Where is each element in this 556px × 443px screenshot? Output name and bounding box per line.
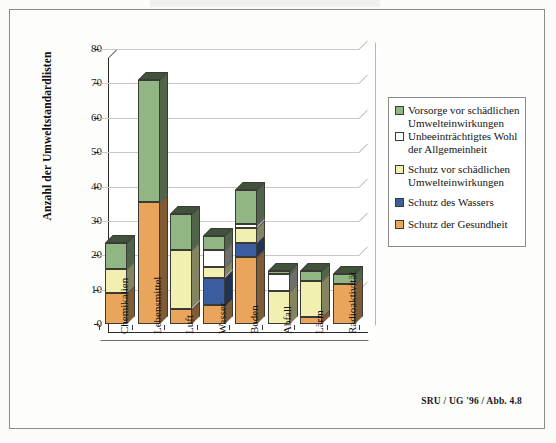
plot-right-wall	[368, 42, 376, 333]
plot-floor	[100, 333, 376, 341]
bar-segment[interactable]	[138, 80, 160, 202]
bar-group-boden[interactable]	[235, 10, 257, 326]
legend-swatch-icon	[395, 132, 404, 141]
legend-label: Schutz der Gesundheit	[408, 218, 508, 231]
x-tick-mark-end	[359, 325, 360, 330]
legend-swatch-icon	[395, 165, 404, 174]
y-axis-labels: 01020304050607080	[68, 10, 102, 443]
legend-swatch-icon	[395, 106, 404, 115]
legend-item-wohl-allgemeinheit[interactable]: Unbeeinträchtigtes Wohl der Allgemeinhei…	[395, 130, 520, 155]
bar-group-wasser[interactable]	[203, 10, 225, 326]
y-axis-title: Anzahl der Umweltstandardlisten	[41, 36, 53, 236]
legend-item-schutz-gesundheit[interactable]: Schutz der Gesundheit	[395, 218, 520, 231]
bar-segment[interactable]	[203, 250, 225, 267]
x-tick-mark-6	[294, 325, 295, 330]
bar-segment[interactable]	[203, 278, 225, 306]
x-tick-mark-3	[197, 325, 198, 330]
x-tick-mark-4	[229, 325, 230, 330]
bar-segment[interactable]	[268, 274, 290, 291]
bar-group-abfall[interactable]	[268, 10, 290, 326]
legend: Vorsorge vor schädlichen Umwelteinwirkun…	[388, 97, 526, 247]
category-label-abfall: Abfall	[282, 306, 293, 334]
category-label-lrm: Lärm	[314, 310, 325, 334]
source-note: SRU / UG '96 / Abb. 4.8	[421, 396, 522, 406]
scan-artifact	[150, 0, 380, 7]
figure-root: 01020304050607080 Anzahl der Umweltstand…	[0, 0, 556, 443]
bar-segment[interactable]	[203, 267, 225, 277]
bar-group-lrm[interactable]	[300, 10, 322, 326]
bar-segment-side	[160, 72, 168, 202]
x-tick-mark-7	[327, 325, 328, 330]
x-tick-mark-5	[262, 325, 263, 330]
bar-group-luft[interactable]	[170, 10, 192, 326]
legend-item-schutz-umwelteinwirkungen[interactable]: Schutz vor schädlichen Umwelteinwirkunge…	[395, 163, 520, 188]
x-tick-mark-0	[99, 325, 100, 330]
category-label-chemikalien: Chemikalien	[119, 278, 130, 334]
x-tick-mark-1	[132, 325, 133, 330]
legend-item-schutz-wassers[interactable]: Schutz des Wassers	[395, 196, 520, 209]
bar-segment[interactable]	[235, 228, 257, 243]
legend-label: Schutz des Wassers	[408, 196, 494, 209]
bar-segment[interactable]	[235, 224, 257, 227]
bar-segment[interactable]	[170, 250, 192, 308]
category-label-wasser: Wasser	[217, 303, 228, 335]
gridline-depth-80	[359, 41, 368, 50]
legend-label: Vorsorge vor schädlichen Umwelteinwirkun…	[408, 104, 520, 129]
x-tick-mark-2	[164, 325, 165, 330]
bar-segment[interactable]	[105, 243, 127, 269]
legend-label: Schutz vor schädlichen Umwelteinwirkunge…	[408, 163, 520, 188]
bar-segment[interactable]	[235, 190, 257, 224]
category-label-lebensmittel: Lebensmittel	[152, 277, 163, 334]
category-label-luft: Luft	[184, 315, 195, 334]
figure-frame: 01020304050607080 Anzahl der Umweltstand…	[9, 9, 545, 429]
category-label-radioaktivitt: Radioaktivität	[347, 272, 358, 334]
bar-segment[interactable]	[235, 243, 257, 257]
bar-segment[interactable]	[268, 271, 290, 274]
bar-segment[interactable]	[203, 236, 225, 250]
bar-segment-side	[192, 242, 200, 308]
bar-segment[interactable]	[300, 271, 322, 281]
bar-segment[interactable]	[170, 214, 192, 250]
category-label-boden: Boden	[249, 305, 260, 334]
legend-swatch-icon	[395, 198, 404, 207]
legend-swatch-icon	[395, 220, 404, 229]
legend-item-vorsorge[interactable]: Vorsorge vor schädlichen Umwelteinwirkun…	[395, 104, 520, 129]
legend-label: Unbeeinträchtigtes Wohl der Allgemeinhei…	[408, 130, 520, 155]
